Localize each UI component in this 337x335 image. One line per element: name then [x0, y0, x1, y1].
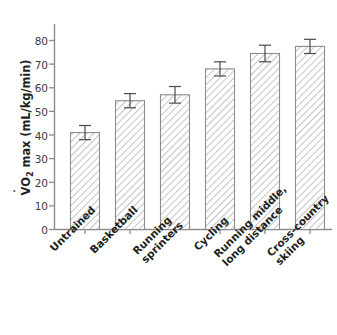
y-tick-label: 20	[22, 178, 48, 189]
plot-area	[0, 0, 337, 335]
bar-cycling	[206, 69, 235, 230]
y-tick-label: 50	[22, 107, 48, 118]
y-tick-label: 70	[22, 60, 48, 71]
y-tick-label: 0	[22, 225, 48, 236]
y-tick-label: 60	[22, 83, 48, 94]
y-tick-marks	[49, 41, 55, 230]
error-bar-series	[79, 39, 316, 139]
y-tick-label-group: 80 70 60 50 40 30 20 10 0	[22, 0, 48, 335]
bar-running-sprinters	[161, 95, 190, 230]
y-tick-label: 30	[22, 154, 48, 165]
y-tick-label: 40	[22, 131, 48, 142]
y-tick-label: 10	[22, 201, 48, 212]
chart-figure: VO2 max (mL/kg/min) 80 70 60 50 40 30 20…	[0, 0, 337, 335]
y-tick-label: 80	[22, 36, 48, 47]
